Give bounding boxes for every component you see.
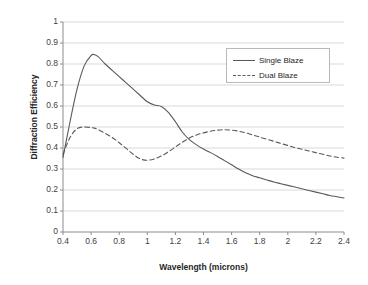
legend-label: Single Blaze: [259, 56, 303, 65]
legend-item-single-blaze: Single Blaze: [233, 53, 303, 67]
legend-item-dual-blaze: Dual Blaze: [233, 68, 298, 82]
x-tick-label: 2.4: [328, 236, 360, 246]
x-axis-title: Wavelength (microns): [63, 262, 344, 272]
legend-label: Dual Blaze: [259, 71, 298, 80]
y-axis-title: Diffraction Efficiency: [29, 37, 39, 197]
x-axis-tick-labels: 0.40.60.811.21.41.61.822.22.4: [0, 0, 368, 285]
chart-container: 00.10.20.30.40.50.60.70.80.91 0.40.60.81…: [0, 0, 368, 285]
legend-line-solid-icon: [233, 56, 255, 64]
chart-legend: Single Blaze Dual Blaze: [226, 48, 330, 83]
legend-line-dashed-icon: [233, 71, 255, 79]
